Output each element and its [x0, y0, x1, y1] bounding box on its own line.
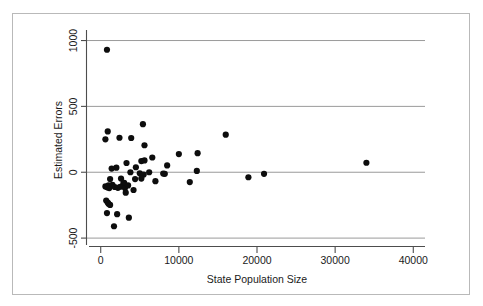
data-point [123, 160, 129, 166]
data-point [102, 136, 108, 142]
data-points-group [102, 47, 369, 230]
data-point [187, 179, 193, 185]
figure-root: -50005001000 010000200003000040000 State… [0, 0, 483, 306]
data-point [261, 171, 267, 177]
data-point [114, 211, 120, 217]
data-point [223, 132, 229, 138]
data-point [141, 142, 147, 148]
y-tick-label-0: 0 [67, 169, 79, 175]
data-point [152, 178, 158, 184]
data-point [123, 190, 129, 196]
data-point [140, 121, 146, 127]
x-axis-title: State Population Size [207, 273, 308, 285]
data-point [138, 158, 144, 164]
data-point [128, 135, 134, 141]
data-point [194, 168, 200, 174]
x-tick-marks [101, 247, 414, 253]
data-point [104, 47, 110, 53]
data-point [111, 223, 117, 229]
data-point [160, 170, 166, 176]
data-point [104, 210, 110, 216]
data-point [126, 215, 132, 221]
y-axis-group [81, 30, 87, 245]
x-tick-label-40000: 40000 [399, 254, 428, 266]
data-point [176, 151, 182, 157]
x-axis-group [89, 247, 425, 254]
x-tick-label-0: 0 [98, 254, 104, 266]
data-point [132, 176, 138, 182]
data-point [125, 182, 131, 188]
scatter-chart: -50005001000 010000200003000040000 State… [0, 0, 483, 306]
data-point [149, 154, 155, 160]
data-point [107, 176, 113, 182]
x-tick-label-30000: 30000 [321, 254, 350, 266]
data-point [109, 165, 115, 171]
y-axis-title: Estimated Errors [52, 101, 64, 179]
y-tick-label-1000: 1000 [67, 29, 79, 53]
x-tick-label-20000: 20000 [242, 254, 271, 266]
data-point [107, 202, 113, 208]
x-tick-label-10000: 10000 [164, 254, 193, 266]
data-point [105, 128, 111, 134]
data-point [195, 150, 201, 156]
y-tick-labels: -50005001000 [67, 29, 79, 249]
y-tick-label-500: 500 [67, 97, 79, 115]
data-point [116, 135, 122, 141]
gridlines-group [86, 41, 425, 239]
data-point [130, 187, 136, 193]
data-point [146, 169, 152, 175]
data-point [127, 169, 133, 175]
data-point [138, 175, 144, 181]
data-point [133, 164, 139, 170]
y-tick-label--500: -500 [67, 227, 79, 248]
data-point [245, 174, 251, 180]
data-point [164, 162, 170, 168]
data-point [363, 160, 369, 166]
x-tick-labels: 010000200003000040000 [98, 254, 428, 266]
